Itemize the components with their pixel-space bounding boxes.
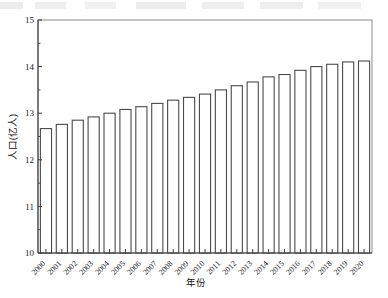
x-axis-title: 年份 (186, 277, 206, 288)
bar[interactable] (311, 67, 322, 253)
bar[interactable] (104, 113, 115, 253)
x-tick-label: 2008 (157, 259, 175, 277)
x-tick-label: 2004 (93, 259, 111, 277)
x-tick-label: 2006 (125, 259, 143, 277)
bar[interactable] (88, 117, 99, 253)
x-tick-label: 2014 (252, 259, 270, 277)
bar[interactable] (136, 107, 147, 253)
x-tick-label: 2002 (61, 259, 79, 277)
x-tick-label: 2007 (141, 259, 159, 277)
bar[interactable] (72, 120, 83, 253)
y-tick-label: 12 (25, 155, 34, 165)
x-tick-label: 2019 (332, 259, 350, 277)
x-tick-label: 2015 (268, 259, 286, 277)
bar[interactable] (327, 64, 338, 253)
bar[interactable] (343, 62, 354, 253)
x-tick-label: 2001 (46, 259, 64, 277)
bar[interactable] (199, 94, 210, 253)
y-tick-label: 14 (25, 62, 35, 72)
bar[interactable] (247, 82, 258, 253)
y-tick-label: 15 (25, 15, 35, 25)
x-tick-label: 2017 (300, 259, 318, 277)
x-axis-tick-labels: 2000200120022003200420052006200720082009… (30, 259, 366, 277)
x-tick-label: 2018 (316, 259, 334, 277)
bar[interactable] (120, 109, 131, 253)
bar[interactable] (215, 90, 226, 253)
x-axis-ticks (46, 249, 364, 253)
y-axis-tick-labels: 101112131415 (25, 15, 35, 258)
x-tick-label: 2020 (348, 259, 366, 277)
x-tick-label: 2012 (221, 259, 239, 277)
bar[interactable] (56, 124, 67, 253)
bar[interactable] (168, 100, 179, 253)
bar-series (40, 61, 369, 253)
plot-area (38, 20, 372, 253)
bar[interactable] (231, 86, 242, 253)
bar[interactable] (295, 70, 306, 253)
population-bar-chart: 101112131415 200020012002200320042005200… (0, 0, 388, 298)
bar[interactable] (152, 103, 163, 253)
y-tick-label: 11 (25, 202, 34, 212)
x-tick-label: 2003 (77, 259, 95, 277)
x-tick-label: 2005 (109, 259, 127, 277)
x-tick-label: 2011 (205, 259, 222, 276)
bar[interactable] (184, 97, 195, 253)
x-tick-label: 2016 (284, 259, 302, 277)
y-tick-label: 10 (25, 248, 35, 258)
x-tick-label: 2000 (30, 259, 48, 277)
bar[interactable] (358, 61, 369, 253)
x-tick-label: 2010 (189, 259, 207, 277)
x-tick-label: 2013 (236, 259, 254, 277)
bar[interactable] (40, 129, 51, 253)
bar[interactable] (263, 77, 274, 253)
y-tick-label: 13 (25, 108, 35, 118)
x-tick-label: 2009 (173, 259, 191, 277)
y-axis-title: 人口(亿人) (7, 114, 18, 160)
bar[interactable] (279, 75, 290, 253)
